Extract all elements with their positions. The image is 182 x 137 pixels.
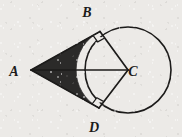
label-a: A [8, 64, 18, 79]
diagram-canvas: A B C D [0, 0, 182, 137]
label-c: C [128, 64, 138, 79]
radius-cd [99, 70, 128, 108]
label-b: B [81, 5, 91, 20]
geometry-figure: A B C D [0, 0, 182, 137]
radius-cb [100, 32, 128, 71]
label-d: D [88, 120, 99, 135]
